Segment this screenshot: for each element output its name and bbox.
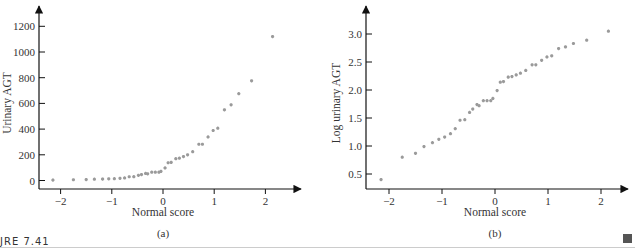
- data-points-a: [51, 35, 274, 182]
- data-point-asterisk-icon: [154, 171, 157, 174]
- x-tick-label: −1: [106, 195, 118, 207]
- data-point-asterisk-icon: [170, 161, 173, 164]
- data-point-asterisk-icon: [137, 174, 140, 177]
- data-point-asterisk-icon: [449, 132, 452, 135]
- data-point-asterisk-icon: [85, 178, 88, 181]
- panel-label-b: (b): [489, 227, 502, 240]
- data-point-asterisk-icon: [379, 178, 382, 181]
- y-tick-label: 1.0: [348, 140, 362, 152]
- data-point-asterisk-icon: [414, 152, 417, 155]
- figure-canvas: 020040060080010001200 −2−1012 Normal sco…: [0, 0, 635, 251]
- data-point-asterisk-icon: [531, 63, 534, 66]
- data-point-asterisk-icon: [401, 156, 404, 159]
- panel-label-a: (a): [157, 227, 170, 240]
- y-ticks-a: 020040060080010001200: [13, 20, 45, 186]
- data-point-asterisk-icon: [572, 42, 575, 45]
- y-tick-label: 2.5: [348, 56, 362, 68]
- data-point-asterisk-icon: [557, 47, 560, 50]
- x-tick-label: −2: [383, 195, 395, 207]
- data-point-asterisk-icon: [140, 173, 143, 176]
- data-point-asterisk-icon: [159, 170, 162, 173]
- data-point-asterisk-icon: [174, 157, 177, 160]
- y-tick-label: 1200: [13, 20, 36, 32]
- data-point-asterisk-icon: [585, 39, 588, 42]
- y-tick-label: 400: [19, 123, 36, 135]
- data-point-asterisk-icon: [72, 178, 75, 181]
- data-point-asterisk-icon: [206, 135, 209, 138]
- figure-caption: JRE 7.41: [0, 236, 50, 247]
- data-point-asterisk-icon: [191, 150, 194, 153]
- data-point-asterisk-icon: [519, 72, 522, 75]
- data-point-asterisk-icon: [443, 135, 446, 138]
- data-point-asterisk-icon: [422, 145, 425, 148]
- data-point-asterisk-icon: [437, 138, 440, 141]
- data-point-asterisk-icon: [545, 55, 548, 58]
- x-tick-label: 1: [545, 195, 551, 207]
- data-point-asterisk-icon: [550, 54, 553, 57]
- caption-divider: [0, 247, 635, 248]
- data-point-asterisk-icon: [502, 80, 505, 83]
- x-tick-label: 1: [211, 195, 217, 207]
- data-point-asterisk-icon: [515, 73, 518, 76]
- data-point-asterisk-icon: [540, 59, 543, 62]
- data-point-asterisk-icon: [107, 177, 110, 180]
- data-point-asterisk-icon: [471, 107, 474, 110]
- y-tick-label: 1000: [13, 46, 36, 58]
- data-point-asterisk-icon: [454, 127, 457, 130]
- data-point-asterisk-icon: [468, 111, 471, 114]
- data-point-asterisk-icon: [118, 177, 121, 180]
- y-axis-label-a: Urinary AGT: [1, 72, 14, 134]
- data-point-asterisk-icon: [201, 143, 204, 146]
- data-point-asterisk-icon: [237, 92, 240, 95]
- data-point-asterisk-icon: [132, 175, 135, 178]
- data-point-asterisk-icon: [564, 45, 567, 48]
- data-point-asterisk-icon: [186, 153, 189, 156]
- x-tick-label: 2: [598, 195, 604, 207]
- y-tick-label: 800: [19, 72, 36, 84]
- y-tick-label: 200: [19, 149, 36, 161]
- y-tick-label: 0.5: [348, 168, 362, 180]
- data-point-asterisk-icon: [431, 141, 434, 144]
- y-tick-label: 1.5: [348, 112, 362, 124]
- data-point-asterisk-icon: [534, 63, 537, 66]
- x-ticks-a: −2−1012: [55, 189, 268, 207]
- data-point-asterisk-icon: [197, 143, 200, 146]
- data-point-asterisk-icon: [229, 103, 232, 106]
- data-point-asterisk-icon: [507, 76, 510, 79]
- y-tick-label: 600: [19, 97, 36, 109]
- x-tick-label: 2: [263, 195, 269, 207]
- data-point-asterisk-icon: [482, 99, 485, 102]
- data-point-asterisk-icon: [167, 161, 170, 164]
- end-of-figure-square-icon: [623, 234, 632, 243]
- y-tick-label: 2.0: [348, 84, 362, 96]
- data-point-asterisk-icon: [510, 75, 513, 78]
- data-point-asterisk-icon: [458, 119, 461, 122]
- x-tick-label: −1: [436, 195, 448, 207]
- data-point-asterisk-icon: [212, 129, 215, 132]
- data-point-asterisk-icon: [182, 155, 185, 158]
- data-point-asterisk-icon: [524, 69, 527, 72]
- x-axis-label-a: Normal score: [132, 206, 194, 218]
- data-point-asterisk-icon: [128, 175, 131, 178]
- data-point-asterisk-icon: [499, 81, 502, 84]
- data-point-asterisk-icon: [113, 177, 116, 180]
- x-axis-label-b: Normal score: [464, 206, 526, 218]
- data-point-asterisk-icon: [485, 99, 488, 102]
- x-ticks-b: −2−1012: [383, 189, 604, 207]
- x-tick-label: −2: [55, 195, 67, 207]
- data-point-asterisk-icon: [123, 176, 126, 179]
- data-point-asterisk-icon: [250, 79, 253, 82]
- data-point-asterisk-icon: [93, 178, 96, 181]
- data-point-asterisk-icon: [51, 179, 54, 182]
- data-point-asterisk-icon: [478, 104, 481, 107]
- data-point-asterisk-icon: [178, 157, 181, 160]
- data-points-b: [379, 30, 610, 182]
- y-tick-label: 3.0: [348, 28, 362, 40]
- y-ticks-b: 0.51.01.52.02.53.0: [348, 28, 372, 180]
- data-point-asterisk-icon: [271, 35, 274, 38]
- data-point-asterisk-icon: [463, 118, 466, 121]
- chart-panel-b: 0.51.01.52.02.53.0 −2−1012 Normal score …: [330, 6, 628, 240]
- data-point-asterisk-icon: [223, 108, 226, 111]
- data-point-asterisk-icon: [216, 127, 219, 130]
- data-point-asterisk-icon: [150, 171, 153, 174]
